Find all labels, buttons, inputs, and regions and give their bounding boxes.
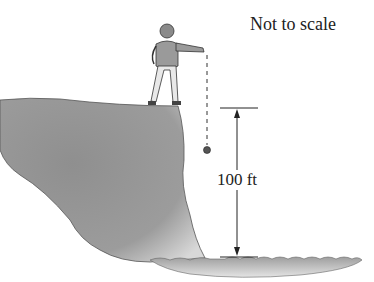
arrow-up-icon [234, 109, 240, 118]
height-label: 100 ft [210, 170, 264, 190]
arrow-down-icon [234, 247, 240, 256]
cliff-drop-diagram [0, 0, 374, 282]
not-to-scale-note: Not to scale [250, 14, 336, 35]
dropped-ball [204, 147, 211, 154]
water-surface [150, 257, 362, 277]
cliff [0, 98, 205, 262]
person [148, 24, 204, 105]
